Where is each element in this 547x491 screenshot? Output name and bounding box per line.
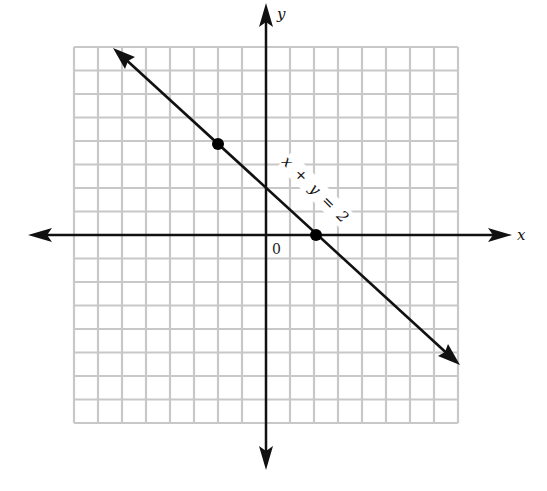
x-axis-label: x [517, 226, 526, 244]
point-neg2-4 [212, 138, 224, 150]
origin-label: 0 [272, 241, 281, 257]
graph-line [113, 48, 460, 365]
x-axis [28, 228, 512, 242]
y-axis-label: y [276, 5, 286, 23]
coordinate-plane: x y 0 x + y = 2 [0, 0, 547, 491]
point-2-0 [310, 229, 322, 241]
